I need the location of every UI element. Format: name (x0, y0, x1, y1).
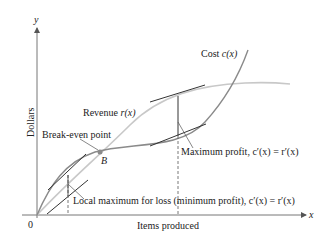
y-axis-var: y (33, 14, 39, 25)
y-axis-label: Dollars (25, 107, 36, 137)
local-max-loss-label: Local maximum for loss (minimum profit),… (73, 195, 295, 207)
origin-label: 0 (28, 219, 33, 230)
break-even-leader (80, 139, 98, 150)
break-even-point (98, 150, 103, 155)
cost-label: Cost c(x) (201, 48, 238, 60)
max-profit-label: Maximum profit, c′(x) = r′(x) (181, 146, 299, 158)
x-axis-var: x (308, 209, 314, 220)
max-profit-leader (178, 122, 193, 148)
x-axis-label: Items produced (137, 220, 199, 231)
point-b-label: B (101, 155, 107, 166)
revenue-label: Revenue r(x) (83, 107, 136, 119)
diagram-canvas: y x 0 Items produced Dollars Break-even … (0, 0, 323, 245)
break-even-label: Break-even point (42, 129, 111, 140)
profit-diagram: y x 0 Items produced Dollars Break-even … (0, 0, 323, 245)
